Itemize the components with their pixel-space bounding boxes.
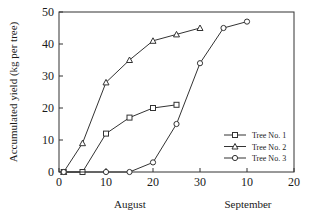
x-group-label-august: August	[114, 198, 146, 210]
data-point-square	[127, 115, 132, 120]
data-point-circle	[244, 19, 249, 24]
x-group-label-september: September	[224, 198, 271, 210]
legend-item: Tree No. 1	[224, 131, 286, 140]
x-tick-label: 20	[147, 175, 159, 189]
legend-label: Tree No. 2	[252, 143, 286, 152]
data-point-circle	[174, 121, 179, 126]
y-tick-label: 50	[42, 5, 54, 19]
y-tick-label: 20	[42, 101, 54, 115]
legend-label: Tree No. 3	[252, 154, 286, 163]
data-point-circle	[61, 169, 66, 174]
y-tick-label: 40	[42, 37, 54, 51]
legend: Tree No. 1Tree No. 2Tree No. 3	[224, 131, 286, 163]
x-tick-label: 10	[100, 175, 112, 189]
data-point-circle	[127, 169, 132, 174]
data-point-square	[151, 106, 156, 111]
series-line	[64, 105, 177, 172]
series-1	[61, 102, 179, 174]
y-axis-label: Accumulated yield (kg per tree)	[7, 21, 20, 162]
data-point-triangle	[80, 140, 86, 146]
x-tick-label: 20	[288, 175, 300, 189]
legend-marker-circle	[232, 155, 237, 160]
data-point-circle	[221, 25, 226, 30]
yield-chart: 01020304050 01020301020 Tree No. 1Tree N…	[0, 0, 313, 220]
series-line	[64, 28, 200, 172]
legend-marker-square	[233, 133, 238, 138]
y-tick-label: 30	[42, 69, 54, 83]
series-line	[64, 22, 247, 172]
x-tick-label: 0	[56, 175, 62, 189]
series-group	[61, 19, 250, 175]
data-point-circle	[197, 61, 202, 66]
x-axis: 01020301020	[56, 168, 300, 189]
y-axis: 01020304050	[42, 5, 63, 179]
data-point-square	[174, 102, 179, 107]
y-tick-label: 0	[48, 165, 54, 179]
x-tick-label: 30	[194, 175, 206, 189]
data-point-square	[104, 131, 109, 136]
legend-item: Tree No. 3	[224, 154, 286, 163]
legend-label: Tree No. 1	[252, 131, 286, 140]
legend-item: Tree No. 2	[224, 143, 286, 152]
y-tick-label: 10	[42, 133, 54, 147]
series-2	[61, 25, 203, 175]
data-point-triangle	[197, 25, 203, 31]
data-point-circle	[150, 160, 155, 165]
x-tick-label: 10	[241, 175, 253, 189]
data-point-circle	[103, 169, 108, 174]
